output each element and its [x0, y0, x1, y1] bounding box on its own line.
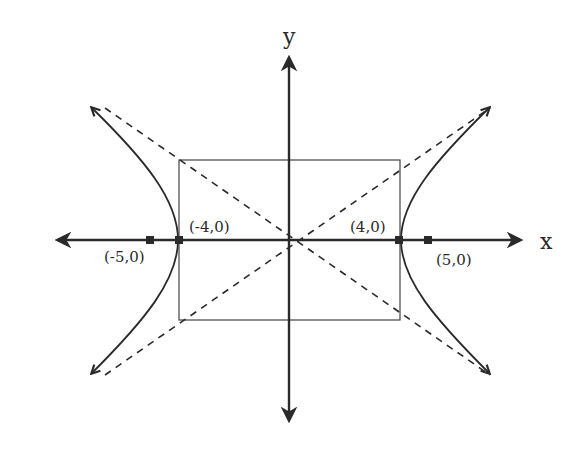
focus-right-label: (5,0): [436, 251, 472, 269]
focus-right-marker: [424, 236, 432, 244]
focus-left-marker: [146, 236, 154, 244]
hyperbola-diagram: y x (-4,0) (4,0) (-5,0) (5,0): [0, 0, 588, 453]
x-axis-label: x: [540, 229, 553, 254]
y-axis-label: y: [282, 24, 296, 49]
vertex-left-marker: [175, 236, 183, 244]
vertex-right-marker: [395, 236, 403, 244]
vertex-right-label: (4,0): [350, 218, 386, 236]
focus-left-label: (-5,0): [104, 248, 145, 266]
vertex-left-label: (-4,0): [189, 218, 230, 236]
